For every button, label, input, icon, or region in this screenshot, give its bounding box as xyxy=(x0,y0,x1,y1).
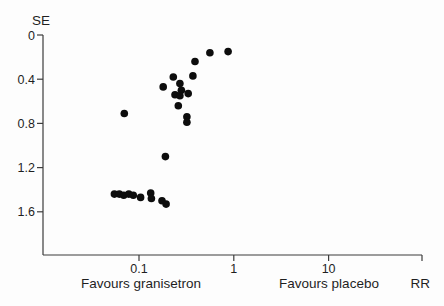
data-point xyxy=(175,102,183,110)
data-point xyxy=(148,195,156,203)
data-point xyxy=(137,194,145,202)
data-point xyxy=(191,58,199,66)
data-point xyxy=(130,191,138,199)
y-tick-label: 1.6 xyxy=(18,205,35,219)
data-point xyxy=(206,49,214,57)
y-tick-label: 0.8 xyxy=(18,117,35,131)
data-point xyxy=(121,110,129,118)
data-point xyxy=(176,80,184,88)
data-point xyxy=(159,83,167,91)
data-point xyxy=(224,48,232,56)
y-tick-label: 1.2 xyxy=(18,161,35,175)
y-tick-label: 0 xyxy=(28,29,35,43)
data-point xyxy=(183,119,191,127)
funnel-plot-figure: SE 00.40.81.21.60.1110 Favours granisetr… xyxy=(0,0,444,306)
data-point xyxy=(170,73,178,81)
x-tick-label: 0.1 xyxy=(130,262,147,276)
data-point xyxy=(184,90,192,98)
y-tick-label: 0.4 xyxy=(18,73,35,87)
data-point xyxy=(162,153,170,161)
data-point xyxy=(162,200,170,208)
x-axis-title: RR xyxy=(374,276,430,291)
x-tick-label: 1 xyxy=(230,262,237,276)
data-point xyxy=(189,72,197,80)
funnel-plot-canvas: 00.40.81.21.60.1110 xyxy=(0,0,444,306)
data-point xyxy=(176,92,184,100)
x-tick-label: 10 xyxy=(322,262,336,276)
